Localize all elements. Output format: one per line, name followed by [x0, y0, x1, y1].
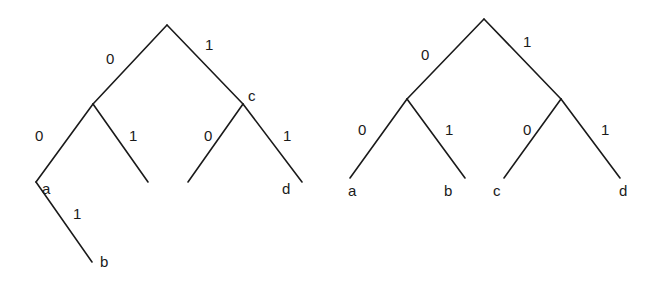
node-label-c: c: [248, 87, 256, 104]
edge-label: 0: [106, 50, 114, 67]
node-label-b: b: [100, 253, 108, 270]
node-label-c: c: [493, 182, 501, 199]
node-label-d: d: [619, 182, 627, 199]
edge-root-n0: [407, 19, 484, 99]
edge-n0-a: [36, 104, 93, 182]
edge-label: 0: [523, 121, 531, 138]
code-trees-diagram: 0101011cadb 010101abcd: [0, 0, 656, 287]
right-tree: 010101abcd: [348, 19, 627, 199]
node-label-d: d: [282, 180, 290, 197]
edge-label: 1: [73, 205, 81, 222]
edge-n0-n01_end: [93, 104, 148, 182]
edge-root-n1: [484, 19, 561, 99]
edge-label: 1: [601, 121, 609, 138]
edge-label: 1: [445, 121, 453, 138]
node-label-a: a: [348, 182, 357, 199]
edge-c-d: [243, 104, 302, 182]
edge-label: 1: [129, 127, 137, 144]
edge-label: 1: [283, 127, 291, 144]
edge-label: 1: [205, 36, 213, 53]
edge-n0-a: [350, 99, 407, 178]
edge-root-n0: [93, 25, 167, 104]
edge-label: 0: [358, 121, 366, 138]
edge-label: 0: [35, 127, 43, 144]
node-label-b: b: [444, 182, 452, 199]
edge-label: 1: [523, 33, 531, 50]
left-tree: 0101011cadb: [35, 25, 302, 270]
node-label-a: a: [42, 180, 51, 197]
edge-label: 0: [204, 127, 212, 144]
edge-label: 0: [421, 46, 429, 63]
edge-n0-b: [407, 99, 465, 178]
edge-n1-d: [561, 99, 620, 178]
edge-n1-c: [504, 99, 561, 178]
edge-c-c0_end: [188, 104, 243, 182]
